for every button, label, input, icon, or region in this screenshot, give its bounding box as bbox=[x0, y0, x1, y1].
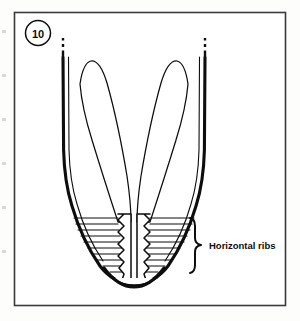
figure-illustration: 10 bbox=[0, 0, 300, 321]
badge-number-label: 10 bbox=[32, 28, 44, 40]
figure-number-badge: 10 bbox=[26, 21, 51, 46]
figure-container: 10 bbox=[0, 0, 300, 321]
horizontal-ribs-label: Horizontal ribs bbox=[209, 240, 276, 251]
